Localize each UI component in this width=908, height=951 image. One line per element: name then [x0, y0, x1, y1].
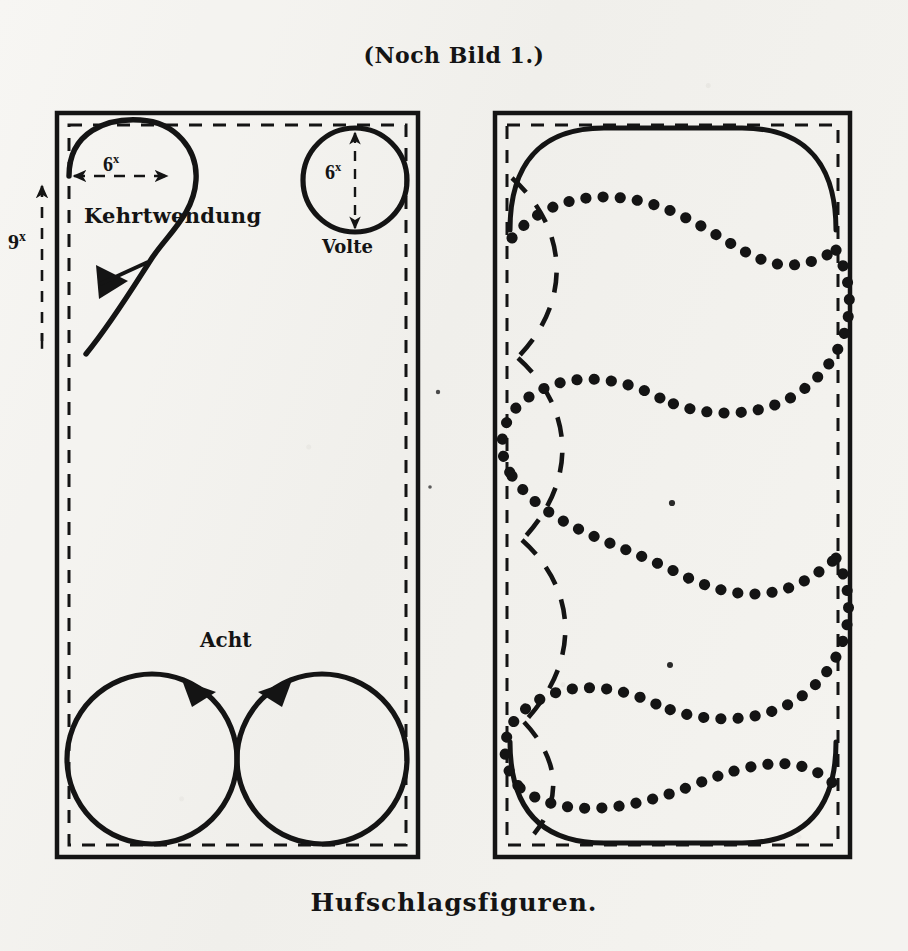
print-fleck [436, 390, 440, 394]
volte-dimension-unit: x [335, 160, 341, 174]
volte-circle [303, 128, 407, 232]
acht-label: Acht [200, 628, 251, 652]
acht-left-circle [67, 674, 237, 844]
schlangenlinie-right-turn-1 [660, 250, 849, 413]
schlangenlinie-tail [520, 764, 836, 809]
right-arena-panel [428, 113, 850, 857]
arena-height-dimension-unit: x [19, 229, 26, 244]
schlangenlinie-loop-4 [505, 688, 656, 788]
title-caption: (Noch Bild 1.) [0, 42, 908, 68]
kehrtwendung-dimension-value: 6 [103, 153, 113, 175]
acht-left-arrowhead [182, 680, 216, 707]
hufschlagsfiguren-drawing [0, 0, 908, 951]
arena-height-dimension-label: 9x [8, 229, 26, 255]
arena-height-dimension-value: 9 [8, 229, 19, 254]
acht-right-arrowhead [258, 680, 292, 707]
kehrtwendung-dimension-label: 6x [103, 152, 119, 176]
right-arena-frame [495, 113, 850, 857]
print-fleck [669, 500, 675, 506]
print-fleck [667, 662, 673, 668]
figure-page: (Noch Bild 1.) Hufschlagsfiguren. Kehrtw… [0, 0, 908, 951]
print-fleck [428, 485, 432, 489]
kehrtwendung-path [69, 120, 196, 354]
schlangenlinie-loop-1 [512, 197, 836, 265]
volte-dimension-value: 6 [325, 161, 335, 183]
kehrtwendung-label: Kehrtwendung [84, 203, 261, 228]
kehrtwendung-dimension-unit: x [113, 152, 119, 166]
grosse-bogen-arc-4 [524, 722, 553, 834]
bottom-caption: Hufschlagsfiguren. [0, 888, 908, 917]
volte-label: Volte [322, 236, 373, 257]
acht-right-circle [237, 674, 407, 844]
right-arena-inner-track [507, 125, 838, 845]
volte-dimension-label: 6x [325, 160, 341, 184]
schlangenlinie-loop-2 [502, 379, 660, 476]
schlangenlinie-loop-3 [512, 476, 836, 594]
